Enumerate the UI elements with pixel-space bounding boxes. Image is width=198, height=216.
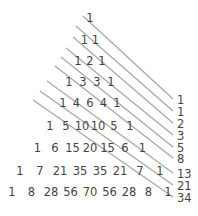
- triangle-entry: 21: [53, 164, 68, 178]
- triangle-entry: 1: [34, 141, 41, 155]
- triangle-entry: 1: [65, 75, 72, 89]
- triangle-entry: 10: [75, 119, 90, 133]
- triangle-entry: 1: [98, 54, 105, 68]
- triangle-entry: 7: [36, 164, 43, 178]
- triangle-entry: 20: [83, 141, 98, 155]
- triangle-entry: 56: [102, 185, 117, 199]
- triangle-entry: 4: [73, 96, 80, 110]
- triangle-entry: 28: [44, 185, 59, 199]
- triangle-entry: 15: [65, 141, 80, 155]
- triangle-entry: 1: [74, 54, 81, 68]
- diagonal-line: [73, 37, 173, 123]
- triangle-rows: 1111211331146411510105116152015611721353…: [8, 11, 171, 199]
- triangle-entry: 1: [59, 96, 66, 110]
- triangle-entry: 28: [122, 185, 137, 199]
- triangle-entry: 4: [100, 96, 107, 110]
- triangle-entry: 1: [8, 185, 15, 199]
- triangle-entry: 15: [100, 141, 115, 155]
- triangle-entry: 1: [16, 164, 23, 178]
- triangle-entry: 10: [91, 119, 106, 133]
- triangle-entry: 6: [121, 141, 128, 155]
- triangle-entry: 1: [156, 164, 163, 178]
- pascal-fibonacci-diagram: 1111211331146411510105116152015611721353…: [0, 0, 198, 216]
- triangle-entry: 8: [145, 185, 152, 199]
- triangle-entry: 1: [86, 11, 93, 25]
- triangle-entry: 70: [83, 185, 98, 199]
- triangle-entry: 1: [139, 141, 146, 155]
- triangle-entry: 8: [28, 185, 35, 199]
- triangle-entry: 1: [107, 75, 114, 89]
- triangle-entry: 3: [79, 75, 86, 89]
- triangle-entry: 2: [86, 54, 93, 68]
- triangle-entry: 1: [113, 96, 120, 110]
- fibonacci-sums: 112358132134: [177, 93, 192, 205]
- triangle-entry: 35: [73, 164, 88, 178]
- triangle-entry: 1: [126, 119, 133, 133]
- fibonacci-sum-label: 8: [177, 152, 184, 166]
- triangle-entry: 56: [63, 185, 78, 199]
- triangle-entry: 3: [93, 75, 100, 89]
- triangle-entry: 6: [51, 141, 58, 155]
- triangle-entry: 7: [136, 164, 143, 178]
- triangle-entry: 5: [62, 119, 69, 133]
- fibonacci-sum-label: 34: [177, 191, 192, 205]
- triangle-entry: 1: [92, 33, 99, 47]
- triangle-entry: 1: [46, 119, 53, 133]
- triangle-entry: 6: [86, 96, 93, 110]
- triangle-entry: 1: [164, 185, 171, 199]
- triangle-entry: 35: [93, 164, 108, 178]
- triangle-entry: 21: [113, 164, 128, 178]
- triangle-entry: 5: [110, 119, 117, 133]
- triangle-entry: 1: [81, 33, 88, 47]
